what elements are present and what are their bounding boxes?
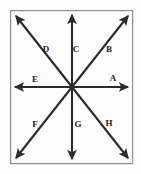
vector-arrow-b <box>72 16 128 87</box>
vector-diagram-canvas <box>0 0 141 174</box>
vector-label-f: F <box>32 120 38 129</box>
vector-label-g: G <box>74 120 81 129</box>
vector-label-e: E <box>32 75 38 84</box>
vector-label-h: H <box>105 119 112 128</box>
vector-label-b: B <box>106 45 112 54</box>
vector-arrow-f <box>16 87 72 158</box>
vector-arrow-group <box>15 15 128 159</box>
vector-label-a: A <box>110 74 117 83</box>
vector-diagram-figure: A B C D E F G H <box>0 0 141 174</box>
vector-label-c: C <box>73 45 80 54</box>
vector-label-d: D <box>43 45 50 54</box>
